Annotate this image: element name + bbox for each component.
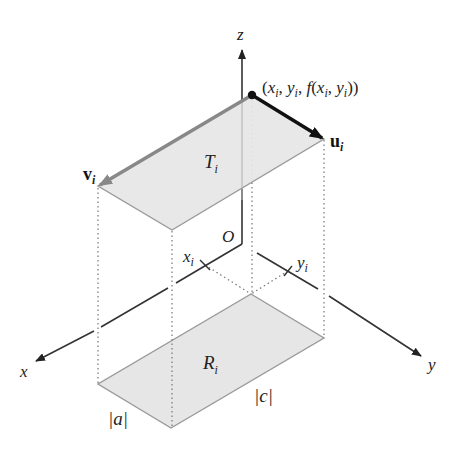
y-axis-seg2 [329, 296, 421, 356]
y-axis-label: y [426, 355, 436, 374]
length-c-label: |c| [254, 385, 273, 406]
yi-tick-label: yi [295, 253, 308, 275]
tangent-point [248, 91, 256, 99]
x-axis-label: x [19, 362, 28, 381]
x-axis-seg2 [101, 288, 168, 327]
u-vector-label: ui [330, 131, 344, 154]
origin-label: O [222, 227, 234, 246]
x-axis-seg3 [36, 331, 94, 361]
xi-tick-label: xi [182, 247, 194, 269]
length-a-label: |a| [108, 408, 128, 429]
v-vector-label: vi [83, 164, 96, 187]
yi-guide-line [251, 271, 288, 294]
point-label: (xi, yi, f(xi, yi)) [262, 78, 358, 100]
xi-guide-line [205, 265, 251, 294]
tangent-plane-diagram: z x y O xi yi (xi, yi, f(xi, yi)) ui vi … [0, 0, 463, 453]
z-axis-label: z [236, 25, 244, 44]
yi-tick [284, 266, 292, 276]
